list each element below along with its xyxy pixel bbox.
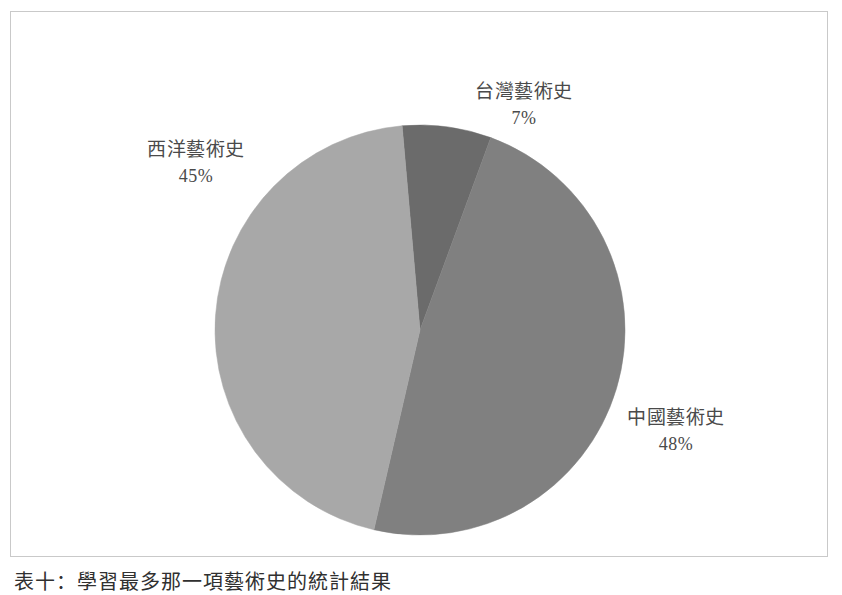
pie-label-chinese-value: 48% [566, 433, 786, 456]
pie-label-taiwan-art-history: 台灣藝術史 7% [414, 80, 634, 130]
pie-label-taiwan-name: 台灣藝術史 [414, 80, 634, 104]
pie-label-chinese-name: 中國藝術史 [566, 406, 786, 430]
pie-label-taiwan-value: 7% [414, 107, 634, 130]
pie-label-western-name: 西洋藝術史 [86, 138, 306, 162]
figure-caption: 表十：學習最多那一項藝術史的統計結果 [14, 566, 392, 595]
pie-label-western-art-history: 西洋藝術史 45% [86, 138, 306, 188]
pie-label-western-value: 45% [86, 165, 306, 188]
pie-label-chinese-art-history: 中國藝術史 48% [566, 406, 786, 456]
